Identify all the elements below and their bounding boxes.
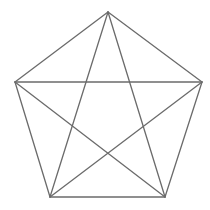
pentagon-diagram [0, 0, 210, 210]
edge-bottom-left-left [15, 82, 50, 197]
diagonal-right-bottom-left [50, 82, 202, 197]
diagonal-top-bottom-right [108, 12, 165, 197]
pentagon-edges [15, 12, 202, 197]
diagonal-top-bottom-left [50, 12, 108, 197]
edge-top-right [108, 12, 202, 82]
diagonal-left-bottom-right [15, 82, 165, 197]
edge-right-bottom-right [165, 82, 202, 197]
pentagon-star-figure [0, 0, 210, 210]
edge-left-top [15, 12, 108, 82]
